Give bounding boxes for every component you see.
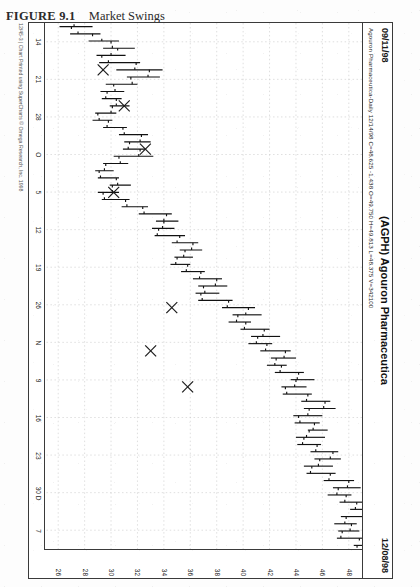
ohlc-bar — [337, 536, 362, 541]
ohlc-bar — [198, 298, 232, 303]
date-axis-tick: 5 — [35, 191, 42, 195]
ohlc-bar — [127, 75, 160, 80]
stock-chart[interactable]: 09/11/98 (AGPH) Agouron Pharmaceutica 12… — [28, 22, 393, 579]
ohlc-bar — [307, 471, 336, 476]
ohlc-bar — [328, 493, 352, 498]
ohlc-bar — [296, 435, 325, 440]
date-axis-tick: 30 D — [35, 487, 42, 501]
ohlc-bar — [283, 392, 312, 397]
price-axis-tick: 26 — [55, 569, 62, 576]
ohlc-bar — [99, 60, 140, 65]
chart-symbol-title: (AGPH) Agouron Pharmaceutica — [379, 216, 391, 385]
ohlc-bar — [103, 161, 128, 166]
chart-frame: 09/11/98 (AGPH) Agouron Pharmaceutica 12… — [28, 22, 393, 579]
ohlc-bar — [333, 485, 361, 490]
price-axis-tick: 36 — [187, 569, 194, 576]
ohlc-bar — [229, 320, 251, 325]
chart-start-date: 09/11/98 — [380, 28, 390, 63]
ohlc-bar — [172, 240, 198, 245]
ohlc-bar — [291, 377, 315, 382]
price-axis-tick: 30 — [108, 569, 115, 576]
ohlc-bar — [260, 348, 290, 353]
ohlc-bar — [281, 384, 306, 389]
ohlc-bar — [70, 31, 100, 36]
ohlc-bar — [119, 132, 148, 137]
ohlc-bar — [97, 53, 126, 58]
price-axis-tick: 38 — [213, 569, 220, 576]
ohlc-bar — [102, 96, 122, 101]
ohlc-bar — [100, 89, 124, 94]
ohlc-bar — [180, 248, 202, 253]
figure-title: Market Swings — [89, 9, 165, 23]
date-axis-tick: 12 — [35, 226, 42, 233]
ohlc-bar — [334, 521, 356, 526]
ohlc-bar — [60, 24, 93, 29]
price-axis-tick: 46 — [319, 569, 326, 576]
date-axis-tick: 14 — [35, 38, 42, 45]
ohlc-bar — [95, 111, 116, 116]
chart-plot-area[interactable] — [45, 23, 362, 550]
ohlc-bar — [155, 233, 185, 238]
figure-number: FIGURE 9.1 — [6, 9, 75, 23]
date-axis-tick: 21 — [35, 76, 42, 83]
ohlc-bar — [324, 478, 354, 483]
ohlc-bar — [251, 334, 280, 339]
ohlc-bar — [123, 147, 145, 152]
ohlc-bar — [98, 176, 119, 181]
ohlc-bar — [103, 46, 135, 51]
price-axis-tick: 40 — [240, 569, 247, 576]
date-axis: 142128O5121926N9162330 D7 — [29, 23, 45, 550]
ohlc-bar — [301, 399, 330, 404]
ohlc-bar — [297, 442, 321, 447]
date-axis-tick: 26 — [35, 302, 42, 309]
ohlc-bar — [106, 82, 138, 87]
chart-header: 09/11/98 (AGPH) Agouron Pharmaceutica 12… — [362, 23, 392, 578]
ohlc-bar — [95, 168, 113, 173]
price-axis-tick: 42 — [266, 569, 273, 576]
swing-marker-x — [166, 302, 177, 313]
ohlc-bar — [110, 183, 131, 188]
ohlc-bar — [248, 341, 272, 346]
ohlc-bar — [198, 284, 227, 289]
ohlc-bar — [102, 197, 130, 202]
ohlc-bar — [233, 312, 262, 317]
ohlc-bar — [156, 219, 178, 224]
date-axis-tick: 23 — [35, 452, 42, 459]
swing-marker-x — [182, 381, 193, 392]
ohlc-bar — [114, 154, 154, 159]
ohlc-bar — [304, 464, 333, 469]
date-axis-tick: 16 — [35, 415, 42, 422]
price-axis: 484644424038363432302826 — [45, 550, 362, 578]
date-axis-tick: 7 — [35, 529, 42, 533]
date-axis-tick: O — [35, 152, 42, 157]
ohlc-bar — [271, 356, 296, 361]
ohlc-bar — [310, 449, 338, 454]
swing-marker-x — [98, 64, 109, 75]
price-axis-tick: 48 — [345, 569, 352, 576]
chart-quote-line: Agouron Pharmaceutica-Daily 12/14/98 C=4… — [368, 28, 375, 308]
price-axis-tick: 44 — [292, 569, 299, 576]
scanned-page: FIGURE 9.1 Market Swings 09/11/98 (AGPH)… — [0, 0, 420, 587]
ohlc-bar — [122, 204, 148, 209]
ohlc-bar — [341, 514, 362, 519]
price-axis-tick: 32 — [134, 569, 141, 576]
ohlc-bar — [314, 457, 340, 462]
ohlc-bar — [170, 262, 190, 267]
ohlc-plot-svg — [45, 23, 362, 549]
ohlc-bar — [181, 269, 205, 274]
date-axis-tick: N — [35, 341, 42, 346]
ohlc-bar — [93, 118, 113, 123]
date-axis-tick: 9 — [35, 379, 42, 383]
ohlc-bar — [196, 291, 220, 296]
ohlc-bar — [350, 507, 362, 512]
ohlc-bar — [267, 363, 287, 368]
date-axis-tick: 19 — [35, 264, 42, 271]
ohlc-bar — [295, 421, 320, 426]
ohlc-bar — [116, 67, 162, 72]
ohlc-bar — [89, 39, 119, 44]
ohlc-bar — [240, 327, 269, 332]
ohlc-bar — [152, 226, 174, 231]
ohlc-bar — [222, 305, 255, 310]
ohlc-bar — [304, 406, 336, 411]
ohlc-bar — [139, 212, 172, 217]
